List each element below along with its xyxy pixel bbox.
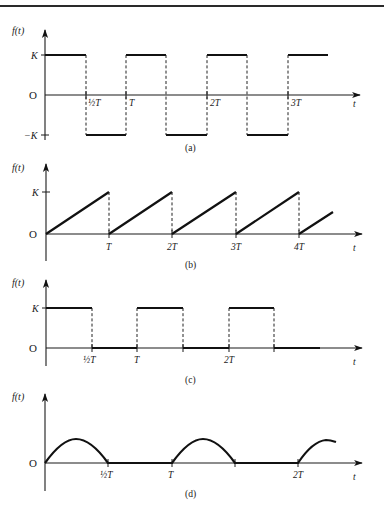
panel-d-half-wave-rectified-sine: f(t) O ½T T 2T t (d) xyxy=(12,391,362,500)
panel-c-ytick-k: K xyxy=(31,303,40,314)
top-rule-divider xyxy=(0,5,384,7)
panel-c-xtick-t: T xyxy=(134,355,140,365)
panel-c-pulse-train: f(t) K O ½T T 2T t (c) xyxy=(12,277,362,386)
periodic-waveforms-figure: f(t) K O −K ½T T 2T 3T t (a) f(t) K O T xyxy=(0,0,384,516)
panel-d-xtick-half-t: ½T xyxy=(100,470,113,480)
panel-a-ytick-k: K xyxy=(30,50,39,61)
panel-a-xtick-2t: 2T xyxy=(210,98,221,108)
panel-b-sawtooth-wave: f(t) K O T 2T 3T 4T t (b) xyxy=(12,162,362,271)
panel-d-caption: (d) xyxy=(185,489,196,500)
panel-a-xlabel: t xyxy=(353,99,356,109)
panel-b-xtick-t: T xyxy=(106,242,112,252)
panel-a-ytick-minus-k: −K xyxy=(24,130,39,141)
panel-b-xtick-2t: 2T xyxy=(167,242,178,252)
panel-c-caption: (c) xyxy=(185,375,196,386)
panel-b-xtick-4t: 4T xyxy=(294,242,305,252)
panel-b-ylabel: f(t) xyxy=(12,162,25,174)
panel-b-ytick-origin: O xyxy=(29,228,37,240)
panel-d-ytick-origin: O xyxy=(29,457,37,469)
panel-b-xlabel: t xyxy=(353,243,356,253)
panel-a-ytick-origin: O xyxy=(29,89,37,101)
panel-a-caption: (a) xyxy=(185,143,196,154)
panel-a-ylabel: f(t) xyxy=(12,25,25,37)
panel-a-xtick-3t: 3T xyxy=(290,98,302,108)
panel-a-xtick-half-t: ½T xyxy=(88,98,101,108)
panel-b-ytick-k: K xyxy=(31,187,40,198)
panel-b-xtick-3t: 3T xyxy=(230,242,242,252)
panel-d-xlabel: t xyxy=(353,472,356,482)
panel-d-ylabel: f(t) xyxy=(12,391,25,403)
panel-c-ytick-origin: O xyxy=(29,342,37,354)
panel-a-xtick-t: T xyxy=(129,98,135,108)
panel-c-xlabel: t xyxy=(353,357,356,367)
panel-c-xtick-half-t: ½T xyxy=(83,355,96,365)
panel-c-ylabel: f(t) xyxy=(12,277,25,289)
panel-c-xtick-2t: 2T xyxy=(224,355,235,365)
panel-b-caption: (b) xyxy=(185,260,196,271)
panel-a-square-wave: f(t) K O −K ½T T 2T 3T t (a) xyxy=(12,25,360,154)
panel-d-xtick-2t: 2T xyxy=(293,470,304,480)
panel-d-xtick-t: T xyxy=(168,470,174,480)
